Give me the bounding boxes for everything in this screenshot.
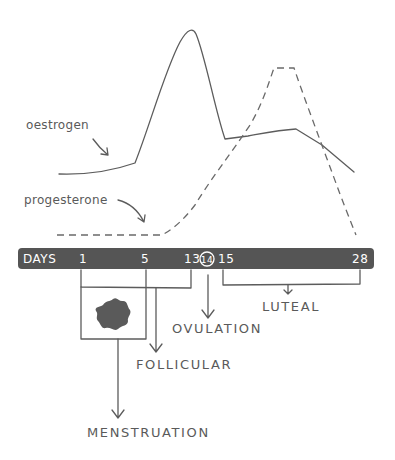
days-label: DAYS	[23, 252, 56, 266]
progesterone-curve	[57, 68, 356, 235]
progesterone-arrow-icon	[118, 200, 145, 222]
hormone-cycle-diagram: oestrogen progesterone DAYS 1 5 13 14 15…	[0, 0, 395, 460]
follicular-arrow-icon	[150, 288, 162, 352]
oestrogen-label: oestrogen	[26, 118, 89, 132]
follicular-label: FOLLICULAR	[136, 357, 232, 372]
day-tick-5: 5	[141, 252, 149, 266]
day-tick-13: 13	[184, 252, 200, 266]
luteal-bracket	[223, 270, 360, 285]
luteal-label: LUTEAL	[262, 299, 320, 314]
day-tick-28: 28	[352, 252, 368, 266]
luteal-arrow-icon	[284, 285, 292, 294]
day-tick-15: 15	[218, 252, 234, 266]
follicular-bracket	[81, 270, 191, 288]
oestrogen-arrow-icon	[93, 139, 108, 155]
oestrogen-curve	[59, 30, 354, 174]
ovulation-label: OVULATION	[172, 321, 262, 336]
blood-blob-icon	[96, 298, 131, 330]
menstruation-label: MENSTRUATION	[87, 425, 210, 440]
progesterone-label: progesterone	[24, 193, 108, 207]
day-tick-14: 14	[201, 255, 213, 265]
ovulation-arrow-icon	[202, 275, 214, 318]
menstruation-arrow-icon	[112, 339, 124, 418]
day-tick-1: 1	[79, 252, 87, 266]
